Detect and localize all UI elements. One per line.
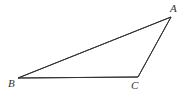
- triangle-diagram: [0, 0, 190, 96]
- vertex-label-c: C: [131, 80, 138, 91]
- vertex-label-b: B: [8, 78, 15, 89]
- triangle-side-ca: [138, 17, 171, 77]
- geometry-figure: A B C: [0, 0, 190, 96]
- vertex-label-a: A: [170, 3, 177, 14]
- triangle-side-ab: [18, 17, 171, 78]
- triangle-side-bc: [18, 77, 138, 78]
